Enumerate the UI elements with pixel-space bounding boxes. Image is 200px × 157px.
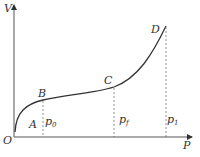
origin-label: O [3, 134, 12, 147]
point-c-label: C [104, 74, 113, 87]
point-a-label: A [28, 118, 37, 131]
pv-diagram: V P O A B C D p0 pf p1 [0, 0, 200, 157]
y-axis-label: V [4, 2, 13, 15]
point-b-label: B [37, 87, 46, 100]
pf-label: pf [119, 113, 130, 127]
p0-label: p0 [45, 115, 57, 129]
p1-label: p1 [167, 113, 179, 127]
compression-curve [15, 26, 166, 132]
x-axis-label: P [182, 139, 191, 152]
point-d-label: D [150, 23, 160, 36]
